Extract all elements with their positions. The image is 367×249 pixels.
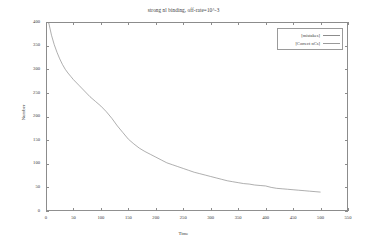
y-tick-mark bbox=[345, 117, 348, 118]
y-tick-mark bbox=[345, 211, 348, 212]
y-tick-mark bbox=[46, 117, 49, 118]
y-tick-mark bbox=[46, 164, 49, 165]
chart-legend: [mistakes][Correct nCs] bbox=[277, 28, 343, 50]
chart-figure: strong nl binding, off-rate=10^-3 050100… bbox=[0, 0, 367, 249]
x-tick-label: 500 bbox=[309, 216, 333, 221]
x-tick-label: 350 bbox=[226, 216, 250, 221]
y-tick-mark bbox=[345, 69, 348, 70]
x-tick-mark bbox=[156, 208, 157, 211]
y-tick-label: 250 bbox=[0, 91, 40, 96]
x-tick-mark bbox=[211, 208, 212, 211]
x-tick-label: 0 bbox=[34, 216, 58, 221]
x-tick-mark bbox=[183, 22, 184, 25]
x-tick-label: 450 bbox=[281, 216, 305, 221]
x-tick-mark bbox=[211, 22, 212, 25]
x-tick-mark bbox=[348, 22, 349, 25]
y-tick-mark bbox=[46, 211, 49, 212]
y-tick-mark bbox=[345, 140, 348, 141]
x-tick-mark bbox=[183, 208, 184, 211]
x-tick-mark bbox=[321, 208, 322, 211]
x-tick-label: 200 bbox=[144, 216, 168, 221]
plot-area bbox=[46, 22, 348, 211]
y-tick-label: 400 bbox=[0, 20, 40, 25]
y-tick-label: 150 bbox=[0, 138, 40, 143]
x-tick-mark bbox=[46, 208, 47, 211]
y-tick-label: 50 bbox=[0, 185, 40, 190]
y-tick-mark bbox=[46, 140, 49, 141]
legend-line-swatch bbox=[323, 35, 340, 36]
x-tick-mark bbox=[101, 208, 102, 211]
legend-item[interactable]: [Correct nCs] bbox=[280, 39, 340, 47]
x-tick-label: 400 bbox=[254, 216, 278, 221]
x-tick-mark bbox=[73, 208, 74, 211]
x-tick-mark bbox=[348, 208, 349, 211]
y-tick-mark bbox=[345, 164, 348, 165]
x-axis-title: Time bbox=[0, 231, 367, 236]
y-tick-mark bbox=[46, 187, 49, 188]
legend-label: [Correct nCs] bbox=[295, 41, 323, 46]
x-tick-mark bbox=[128, 208, 129, 211]
series-lines bbox=[46, 22, 348, 211]
y-axis-title: Number bbox=[21, 98, 26, 128]
x-tick-label: 100 bbox=[89, 216, 113, 221]
x-tick-mark bbox=[46, 22, 47, 25]
x-tick-label: 550 bbox=[336, 216, 360, 221]
x-tick-label: 50 bbox=[61, 216, 85, 221]
x-tick-mark bbox=[101, 22, 102, 25]
legend-item[interactable]: [mistakes] bbox=[280, 31, 340, 39]
y-tick-mark bbox=[345, 93, 348, 94]
x-tick-mark bbox=[238, 22, 239, 25]
x-tick-mark bbox=[293, 22, 294, 25]
legend-label: [mistakes] bbox=[301, 33, 323, 38]
x-tick-mark bbox=[266, 208, 267, 211]
x-tick-mark bbox=[321, 22, 322, 25]
y-tick-label: 0 bbox=[0, 209, 40, 214]
x-tick-mark bbox=[293, 208, 294, 211]
x-tick-label: 150 bbox=[116, 216, 140, 221]
x-tick-mark bbox=[156, 22, 157, 25]
y-tick-mark bbox=[345, 46, 348, 47]
legend-line-swatch bbox=[323, 43, 340, 44]
y-tick-mark bbox=[46, 69, 49, 70]
y-tick-mark bbox=[46, 46, 49, 47]
y-tick-label: 100 bbox=[0, 161, 40, 166]
x-tick-label: 250 bbox=[171, 216, 195, 221]
x-tick-mark bbox=[238, 208, 239, 211]
y-tick-label: 300 bbox=[0, 67, 40, 72]
x-tick-mark bbox=[73, 22, 74, 25]
x-tick-mark bbox=[128, 22, 129, 25]
y-tick-mark bbox=[46, 93, 49, 94]
x-tick-label: 300 bbox=[199, 216, 223, 221]
x-tick-mark bbox=[266, 22, 267, 25]
y-tick-label: 350 bbox=[0, 43, 40, 48]
chart-title: strong nl binding, off-rate=10^-3 bbox=[0, 7, 367, 13]
y-tick-mark bbox=[345, 187, 348, 188]
